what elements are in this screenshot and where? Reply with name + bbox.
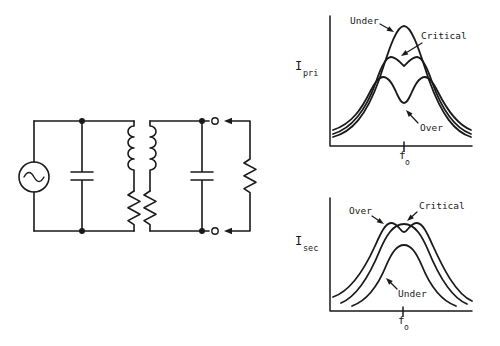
- under-arrow: [380, 24, 389, 29]
- secondary-capacitor: [191, 121, 213, 231]
- arrow-head-icon: [401, 50, 408, 56]
- primary-circuit: [19, 119, 140, 233]
- junction-dot: [200, 119, 204, 123]
- under-arrow: [391, 283, 398, 290]
- secondary-circuit: [144, 118, 256, 234]
- secondary-inductor: [150, 121, 156, 191]
- ipri-axis-label: I: [295, 60, 302, 72]
- primary-resistor: [128, 191, 140, 231]
- over-label: Over: [349, 206, 372, 216]
- isec-axis-label: I: [295, 235, 302, 247]
- junction-dot: [80, 229, 84, 233]
- primary-inductor: [128, 121, 134, 191]
- isec-axis-subscript: sec: [303, 244, 318, 253]
- arrow-left-icon: [224, 118, 232, 124]
- critical-label: Critical: [419, 201, 465, 211]
- output-terminal-bottom: [212, 228, 218, 234]
- junction-dot: [80, 119, 84, 123]
- ipri-axis-subscript: pri: [303, 69, 318, 78]
- over-label: Over: [420, 123, 443, 133]
- annotation-arrows: [380, 24, 422, 123]
- fo-tick-subscript: o: [404, 324, 409, 332]
- over-arrow: [372, 216, 379, 221]
- fo-tick-subscript: o: [405, 159, 410, 167]
- under-label: Under: [350, 16, 379, 26]
- under-label: Under: [398, 289, 427, 299]
- critical-arrow: [412, 212, 418, 217]
- critical-label: Critical: [421, 31, 467, 41]
- arrow-left-icon: [224, 228, 232, 234]
- arrow-head-icon: [387, 26, 394, 32]
- output-terminal-top: [212, 118, 218, 124]
- load-resistor: [231, 121, 256, 231]
- secondary-resistor: [144, 191, 156, 231]
- arrow-head-icon: [377, 218, 384, 224]
- textbook-figure: Under Critical Over I pri f o Over Criti…: [0, 0, 500, 346]
- primary-capacitor: [71, 121, 93, 231]
- junction-dot: [200, 229, 204, 233]
- over-arrow: [410, 115, 418, 124]
- sine-wave-icon: [24, 173, 44, 182]
